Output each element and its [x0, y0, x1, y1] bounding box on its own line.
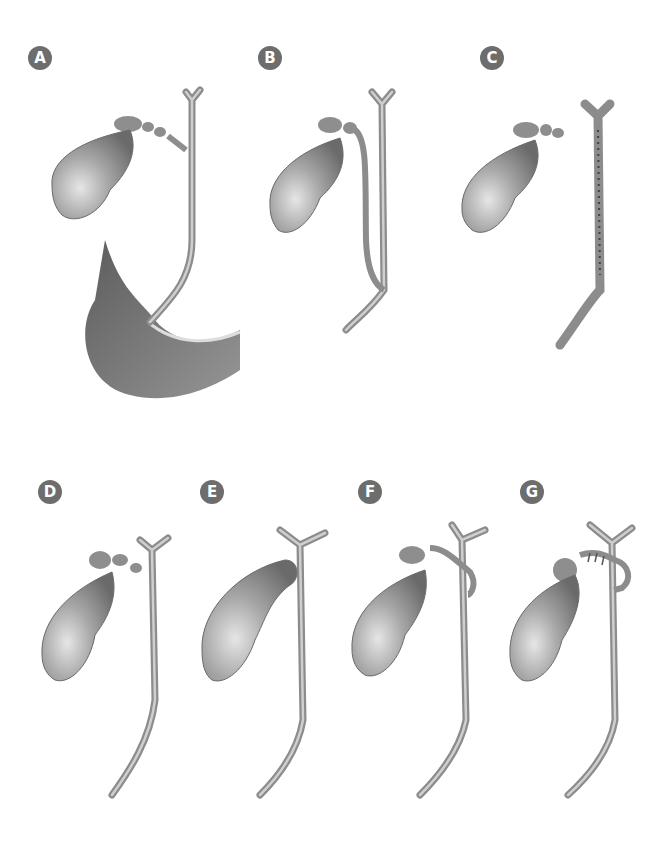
panel-c-illustration: [462, 104, 610, 345]
label-badge-e: E: [200, 480, 224, 504]
label-badge-f: F: [358, 480, 382, 504]
label-badge-b: B: [258, 46, 282, 70]
panel-g-illustration: [510, 525, 632, 795]
panel-e-illustration: [202, 530, 325, 795]
panel-d-illustration: [42, 538, 168, 795]
panel-f-illustration: [352, 525, 485, 795]
diagram-canvas: [0, 0, 663, 850]
panel-b-illustration: [270, 92, 392, 330]
duodenum: [85, 240, 240, 398]
label-badge-a: A: [28, 46, 52, 70]
panel-a-illustration: [52, 90, 240, 398]
label-badge-d: D: [38, 480, 62, 504]
label-badge-c: C: [480, 46, 504, 70]
gallbladder: [52, 130, 133, 219]
label-badge-g: G: [520, 480, 544, 504]
